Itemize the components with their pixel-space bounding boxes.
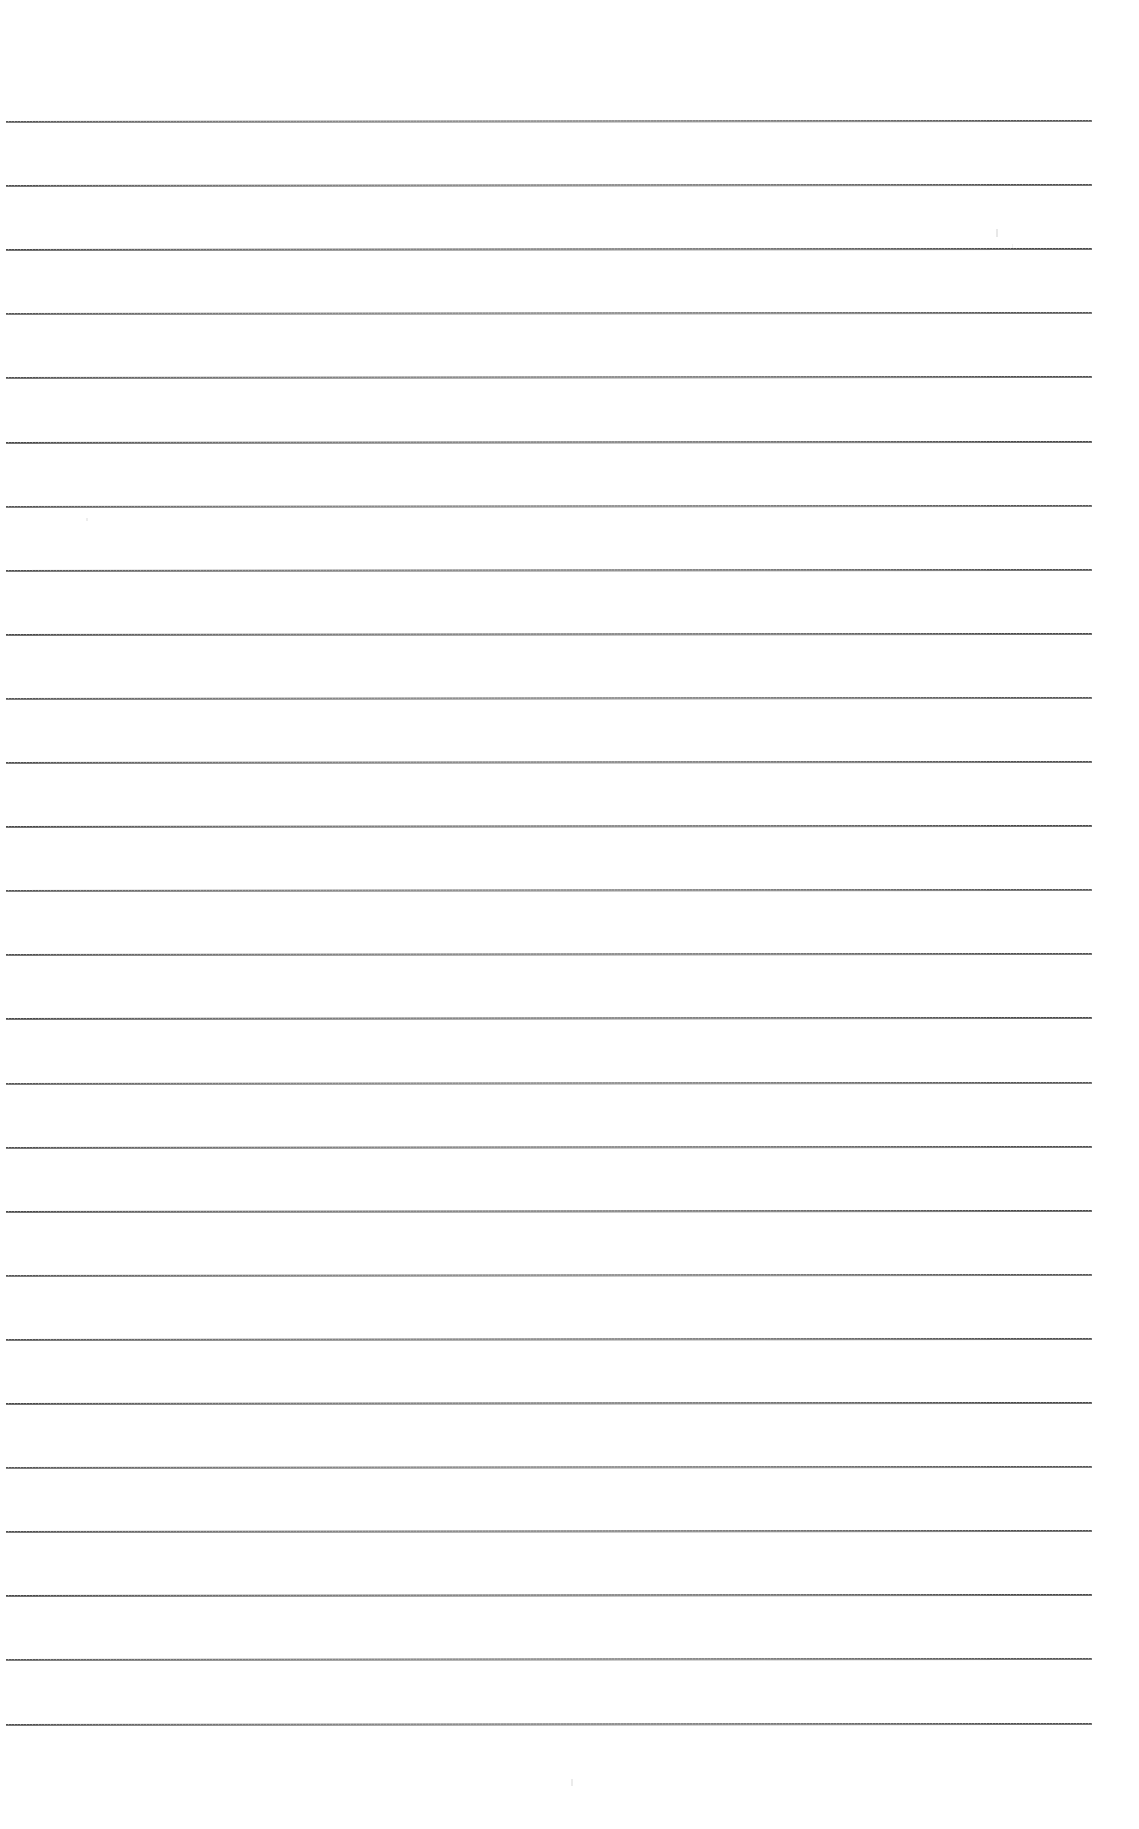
ruled-line [6, 825, 1092, 828]
ruled-line [6, 1146, 1092, 1149]
ruled-line [6, 1722, 1092, 1725]
ruled-line [6, 1658, 1092, 1661]
ruled-line [6, 569, 1092, 572]
ruled-line [6, 697, 1092, 700]
ruled-line [6, 1017, 1092, 1020]
ruled-line [6, 1081, 1092, 1084]
ruled-line [6, 440, 1092, 443]
ruled-line [6, 248, 1092, 251]
ruled-line [6, 633, 1092, 636]
ruled-line [6, 1338, 1092, 1341]
scan-speck [571, 1779, 573, 1786]
ruled-line [6, 120, 1092, 123]
ruled-line [6, 376, 1092, 379]
scan-speck [996, 229, 998, 237]
ruled-line [6, 505, 1092, 508]
ruled-line [6, 761, 1092, 764]
ruled-lines-layer [0, 0, 1139, 1829]
ruled-line [6, 953, 1092, 956]
scanned-page [0, 0, 1139, 1829]
ruled-line [6, 1594, 1092, 1597]
ruled-line [6, 184, 1092, 187]
ruled-line [6, 1274, 1092, 1277]
ruled-line [6, 1466, 1092, 1469]
scan-speck [1012, 244, 1013, 248]
ruled-line [6, 312, 1092, 315]
scan-speck [86, 518, 88, 521]
ruled-line [6, 1402, 1092, 1405]
ruled-line [6, 1210, 1092, 1213]
ruled-line [6, 889, 1092, 892]
ruled-line [6, 1530, 1092, 1533]
